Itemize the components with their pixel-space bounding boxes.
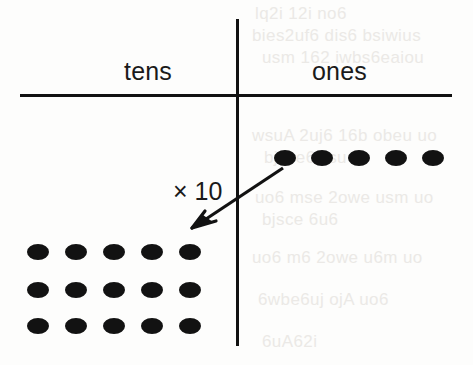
ones-dot [348, 150, 370, 166]
bleed-text: lq2i 12i no6 [255, 4, 347, 24]
tens-dot [179, 282, 201, 298]
ones-dot [311, 150, 333, 166]
tens-dot [141, 318, 163, 334]
column-header-ones: ones [312, 57, 367, 86]
bleed-text: wsuA 2uj6 16b obeu uo [252, 126, 437, 146]
column-divider-line [236, 19, 239, 346]
ones-dot [422, 150, 444, 166]
tens-dot [141, 244, 163, 260]
tens-dot [103, 318, 125, 334]
tens-dot [179, 244, 201, 260]
multiplier-label: × 10 [173, 177, 222, 206]
tens-dot [27, 282, 49, 298]
bleed-text: 6wbe6uj ojA uo6 [258, 290, 389, 310]
tens-dot [65, 318, 87, 334]
tens-dot [103, 282, 125, 298]
tens-dot [65, 244, 87, 260]
tens-dot [141, 282, 163, 298]
ones-dot [385, 150, 407, 166]
bleed-text: 6uA62i [262, 332, 317, 352]
bleed-text: bjsce 6u6 [262, 210, 338, 230]
tens-dot [179, 318, 201, 334]
place-value-chart-page: lq2i 12i no6 bies2uf6 dis6 bsiwius usm 1… [0, 0, 473, 365]
bleed-text: uo6 m6 2owe u6m uo [252, 248, 423, 268]
bleed-text: uo6 mse 2owe usm uo [255, 188, 434, 208]
tens-dot [27, 318, 49, 334]
bleed-text: bies2uf6 dis6 bsiwius [252, 26, 421, 46]
tens-dot [65, 282, 87, 298]
tens-dot [103, 244, 125, 260]
tens-dot [27, 244, 49, 260]
ones-dot [274, 150, 296, 166]
column-header-tens: tens [124, 57, 172, 86]
